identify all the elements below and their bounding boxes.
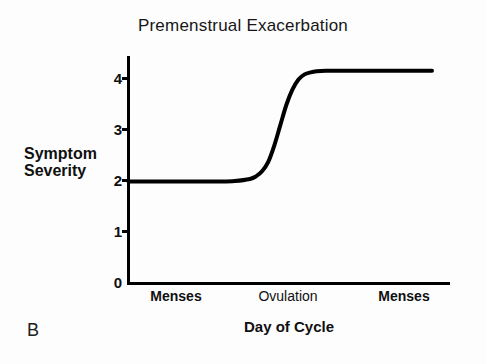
y-axis-title-line-1: Symptom: [24, 145, 112, 162]
x-axis-tick-label-ovulation: Ovulation: [240, 288, 336, 304]
y-axis-title-line-2: Severity: [24, 162, 112, 179]
panel-label: B: [27, 320, 39, 341]
y-axis-tick-label-1: 1: [100, 223, 122, 240]
y-axis-title: Symptom Severity: [24, 145, 112, 179]
chart-figure: Premenstrual Exacerbation 4 3 2 1 0 Symp…: [0, 0, 486, 364]
y-axis-tick-label-0: 0: [100, 274, 122, 291]
x-axis-tick-label-menses-start: Menses: [135, 288, 217, 304]
x-axis-tick-label-menses-end: Menses: [363, 288, 445, 304]
y-axis-tick-label-4: 4: [100, 70, 122, 87]
plot-area: [0, 0, 486, 364]
y-axis-tick-label-3: 3: [100, 121, 122, 138]
data-series-line: [129, 71, 433, 182]
x-axis-title: Day of Cycle: [128, 318, 450, 335]
